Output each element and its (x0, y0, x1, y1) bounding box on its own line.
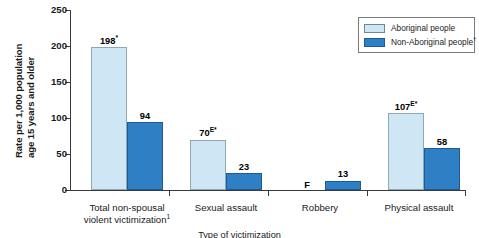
y-tick-label-0: 0 (62, 184, 67, 195)
legend-swatch-icon-non-aboriginal (364, 38, 385, 47)
y-axis-title-line-1: Rate per 1,000 population (13, 44, 24, 158)
bar-aboriginal-total-non-spousal: 198* (91, 47, 127, 190)
bar-non-aboriginal-total-non-spousal: 94 (127, 122, 163, 190)
bar-label-non-aboriginal-physical-assault: 58 (437, 138, 447, 147)
bar-non-aboriginal-physical-assault: 58 (424, 148, 460, 190)
y-tick-label-250: 250 (51, 4, 67, 15)
bar-label-aboriginal-total-non-spousal: 198* (100, 37, 118, 46)
legend-label-non-aboriginal-people: Non-Aboriginal people† (391, 37, 476, 47)
y-axis-line (70, 10, 71, 190)
x-axis-title: Type of victimization (0, 230, 479, 238)
legend-item-non-aboriginal-people[interactable]: Non-Aboriginal people† (364, 36, 469, 48)
x-tick-separator-3 (367, 191, 368, 196)
bar-aboriginal-sexual-assault: 70E* (190, 140, 226, 190)
category-label-sexual-assault-line-1: Sexual assault (195, 202, 257, 214)
bar-label-aboriginal-sexual-assault: 70E* (199, 129, 216, 138)
y-tick-label-150: 150 (51, 76, 67, 87)
y-tick-label-50: 50 (56, 148, 67, 159)
y-axis-title: Rate per 1,000 population age 15 years a… (2, 0, 32, 195)
x-tick-separator-2 (268, 191, 269, 196)
category-label-sexual-assault: Sexual assault (195, 202, 257, 214)
bar-non-aboriginal-sexual-assault: 23 (226, 173, 262, 190)
category-label-total-non-spousal: Total non-spousal violent victimization1 (84, 202, 170, 225)
legend: Aboriginal people Non-Aboriginal people† (358, 17, 475, 53)
category-label-physical-assault-line-1: Physical assault (385, 202, 454, 214)
bar-chart: Rate per 1,000 population age 15 years a… (0, 0, 479, 238)
bar-non-aboriginal-robbery: 13 (325, 181, 361, 190)
category-label-robbery-line-1: Robbery (302, 202, 338, 214)
legend-item-aboriginal-people[interactable]: Aboriginal people (364, 22, 469, 34)
category-label-total-non-spousal-line-2: violent victimization1 (84, 214, 170, 226)
category-label-robbery: Robbery (302, 202, 338, 214)
bar-label-aboriginal-robbery-suppressed: F (304, 181, 310, 190)
bar-label-non-aboriginal-robbery: 13 (338, 170, 348, 179)
bar-aboriginal-physical-assault: 107E* (388, 113, 424, 190)
x-tick-separator-4 (465, 191, 466, 196)
bar-label-non-aboriginal-sexual-assault: 23 (239, 163, 249, 172)
y-axis-title-line-2: age 15 years and older (25, 57, 36, 158)
y-tick-label-100: 100 (51, 112, 67, 123)
legend-label-aboriginal-people: Aboriginal people (391, 23, 455, 33)
legend-swatch-icon-aboriginal (364, 24, 385, 33)
bar-label-non-aboriginal-total-non-spousal: 94 (140, 112, 150, 121)
category-label-physical-assault: Physical assault (385, 202, 454, 214)
x-tick-separator-1 (169, 191, 170, 196)
category-label-total-non-spousal-line-1: Total non-spousal (84, 202, 170, 214)
bar-label-aboriginal-physical-assault: 107E* (395, 103, 417, 112)
y-tick-label-200: 200 (51, 40, 67, 51)
